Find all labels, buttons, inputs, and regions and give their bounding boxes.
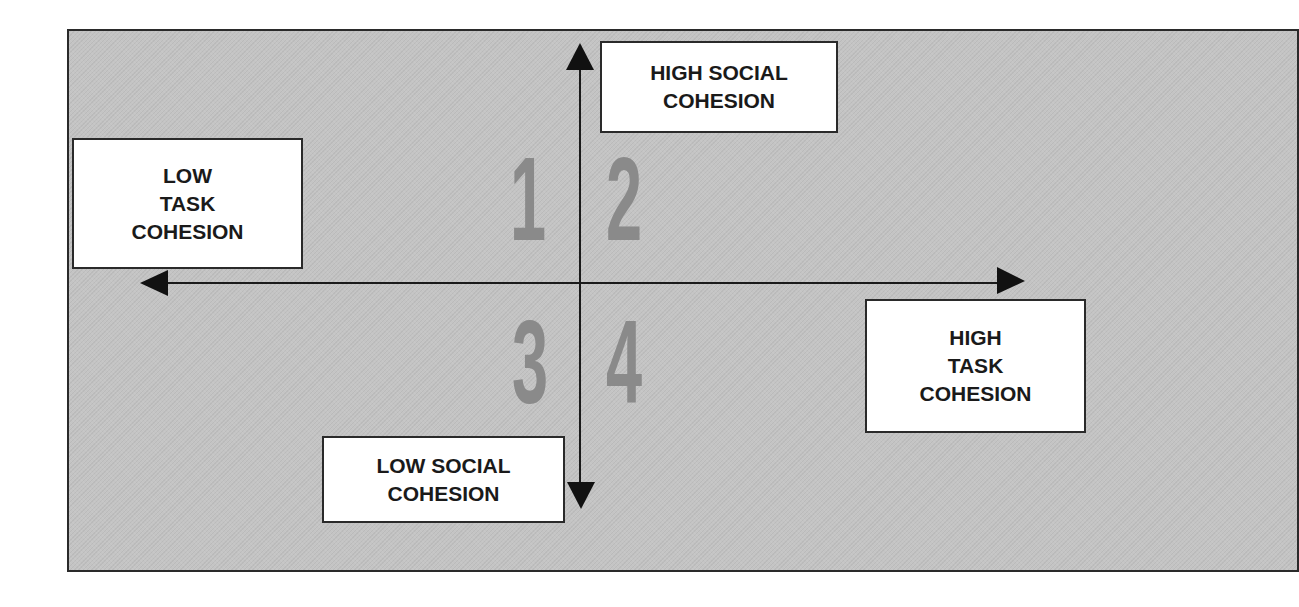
low-social-cohesion-label: LOW SOCIAL COHESION <box>322 436 565 523</box>
high-task-cohesion-label: HIGH TASK COHESION <box>865 299 1086 433</box>
high-social-cohesion-label: HIGH SOCIAL COHESION <box>600 41 838 133</box>
low-task-cohesion-label: LOW TASK COHESION <box>72 138 303 269</box>
left-arrowhead-icon <box>140 270 168 296</box>
right-arrowhead-icon <box>997 267 1025 294</box>
up-arrowhead-icon <box>566 43 594 70</box>
down-arrowhead-icon <box>567 482 595 509</box>
